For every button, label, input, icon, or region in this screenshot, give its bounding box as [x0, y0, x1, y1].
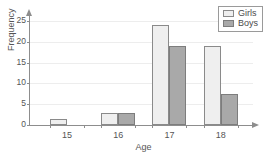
x-axis-line — [30, 125, 253, 126]
bar-girls-age-17 — [152, 25, 169, 125]
legend-label-girls: Girls — [238, 9, 257, 18]
x-tick-mark — [186, 125, 187, 128]
x-tick-mark — [84, 125, 85, 128]
x-axis-title: Age — [0, 142, 267, 152]
bar-boys-age-17 — [169, 46, 186, 125]
y-axis-title: Frequency — [6, 8, 16, 51]
y-tick-mark — [27, 83, 30, 84]
bar-girls-age-16 — [101, 113, 118, 125]
chart-legend: Girls Boys — [218, 6, 263, 32]
legend-item-girls: Girls — [223, 9, 258, 18]
gridline — [30, 42, 253, 43]
y-tick-mark — [27, 104, 30, 105]
bar-girls-age-18 — [204, 46, 221, 125]
legend-item-boys: Boys — [223, 19, 258, 28]
legend-swatch-boys-icon — [223, 20, 234, 27]
x-tick-label: 15 — [55, 130, 79, 140]
x-tick-mark — [204, 125, 205, 128]
x-tick-mark — [152, 125, 153, 128]
y-tick-label: 5 — [21, 98, 26, 108]
x-tick-mark — [50, 125, 51, 128]
x-tick-label: 17 — [157, 130, 181, 140]
x-tick-mark — [101, 125, 102, 128]
legend-swatch-girls-icon — [223, 10, 234, 17]
y-tick-label: 20 — [17, 36, 26, 46]
y-tick-mark — [27, 42, 30, 43]
x-tick-label: 16 — [106, 130, 130, 140]
bar-boys-age-16 — [118, 113, 135, 125]
bar-boys-age-18 — [221, 94, 238, 125]
y-tick-mark — [27, 21, 30, 22]
x-tick-label: 18 — [209, 130, 233, 140]
bar-girls-age-15 — [50, 119, 67, 125]
bar-chart: grouped bar Frequency 051015202515161718… — [0, 0, 267, 156]
y-tick-mark — [27, 63, 30, 64]
x-tick-mark — [238, 125, 239, 128]
y-tick-mark — [27, 125, 30, 126]
y-tick-label: 10 — [17, 77, 26, 87]
y-tick-label: 25 — [17, 15, 26, 25]
y-tick-label: 15 — [17, 57, 26, 67]
y-tick-label: 0 — [21, 119, 26, 129]
x-tick-mark — [135, 125, 136, 128]
legend-label-boys: Boys — [238, 19, 258, 28]
